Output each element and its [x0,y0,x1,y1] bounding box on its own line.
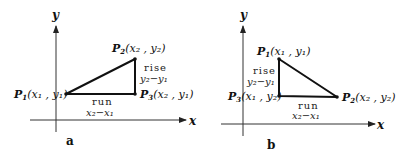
label-p3-a: P3(x₂ , y₁) [139,88,193,102]
run-expr-b: x₂−x₁ [292,110,320,121]
run-label-a: run [92,96,113,107]
label-p3-b: P3(x₁ , y₂) [227,90,281,104]
triangle-a [66,59,135,94]
y-axis-label-a: y [51,8,60,22]
point-p2-a [133,57,137,61]
rise-label-b: rise [253,65,276,76]
caption-b: b [267,138,275,152]
label-p1-a: P1(x₁ , y₁) [13,88,67,102]
panel-b: y x P1(x₁ , y₁) P3(x₁ , y₂) P2(x₂ , y₂) … [221,8,395,152]
caption-a: a [66,134,74,148]
x-axis-label-b: x [376,118,385,132]
label-p1-b: P1(x₁ , y₁) [256,45,310,59]
label-p2-a: P2(x₂ , y₂) [111,42,165,56]
triangle-b [279,59,337,97]
slope-diagram: y x P1(x₁ , y₁) P2(x₂ , y₂) P3(x₂ , y₁) … [0,0,402,157]
y-axis-label-b: y [239,8,248,22]
point-p3-a [133,92,137,96]
run-expr-a: x₂−x₁ [86,107,114,118]
x-axis-label-a: x [188,114,197,128]
point-p2-b [335,95,339,99]
rise-label-a: rise [144,62,167,73]
rise-expr-a: y₂−y₁ [139,73,168,84]
rise-expr-b: y₂−y₁ [246,76,275,87]
panel-a: y x P1(x₁ , y₁) P2(x₂ , y₂) P3(x₂ , y₁) … [13,8,197,148]
label-p2-b: P2(x₂ , y₂) [341,91,395,105]
